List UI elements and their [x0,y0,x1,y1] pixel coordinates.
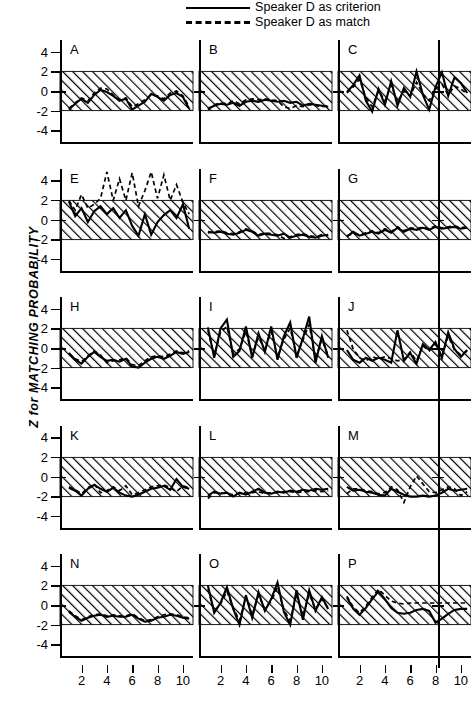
zero-level-tick [194,220,205,222]
panel-j: J [338,297,471,409]
x-tick-mark [132,665,134,673]
y-tick-label: 4 [41,45,48,58]
panel-b: B [199,40,332,152]
x-tick-mark [82,665,84,673]
significance-band [60,457,193,496]
zero-level-tick [55,348,66,350]
zero-level-tick [333,605,344,607]
zero-level-tick [333,477,344,479]
panel-c: C [338,40,471,152]
x-tick-mark [158,665,160,673]
y-tick-label: 2 [41,322,48,335]
panel-o: O [199,554,332,666]
zero-level-tick [55,605,66,607]
panel-row: NOP [60,554,440,666]
y-tick-label: 2 [41,579,48,592]
panel-plot-k [60,426,193,528]
x-tick-label: 4 [242,674,249,687]
panel-l: L [199,426,332,538]
legend-item-match: Speaker D as match [186,15,456,30]
panel-plot-c [338,40,471,142]
panel-label-m: M [348,429,359,442]
y-tick-label: -2 [36,490,48,503]
y-axis-row: 420-2-4 [0,169,60,281]
x-tick-mark [436,665,438,673]
x-tick-label: 10 [176,674,190,687]
panel-plot-i [199,297,332,399]
panel-bottom-spine [60,656,193,658]
y-tick-label: -4 [36,638,48,651]
x-tick-label: 2 [78,674,85,687]
panel-label-p: P [348,557,357,570]
significance-band [338,585,471,624]
y-tick-label: -2 [36,618,48,631]
panel-row: HIJ [60,297,440,409]
panel-bottom-spine [199,399,332,401]
panel-bottom-spine [338,656,471,658]
y-tick-mark [51,496,60,498]
y-tick-mark [51,368,60,370]
right-spine-tick [432,477,444,479]
y-axis-row: 420-2-4 [0,40,60,152]
panel-row: ABC [60,40,440,152]
x-tick-mark [322,665,324,673]
y-tick-label: 4 [41,302,48,315]
y-tick-mark [51,387,60,389]
panel-label-f: F [209,172,217,185]
panel-h: H [60,297,193,409]
x-tick-mark [385,665,387,673]
x-axis-column: 246810 [60,665,193,697]
panel-plot-l [199,426,332,528]
panel-plot-e [60,169,193,271]
x-tick-mark [183,665,185,673]
panel-plot-h [60,297,193,399]
x-tick-mark [360,665,362,673]
panel-bottom-spine [338,399,471,401]
y-tick-label: 0 [41,213,48,226]
panel-plot-n [60,554,193,656]
panel-label-h: H [70,300,79,313]
x-tick-label: 6 [407,674,414,687]
panel-label-n: N [70,557,79,570]
panel-bottom-spine [60,399,193,401]
x-tick-label: 10 [454,674,468,687]
x-tick-label: 10 [315,674,329,687]
panel-grid: ABCEFGHIJKLMNOP [60,40,440,665]
panel-f: F [199,169,332,281]
y-tick-mark [51,180,60,182]
y-tick-label: -2 [36,361,48,374]
panel-label-k: K [70,429,79,442]
panel-a: A [60,40,193,152]
y-tick-mark [51,625,60,627]
panel-g: G [338,169,471,281]
y-tick-mark [51,328,60,330]
panel-bottom-spine [338,528,471,530]
y-tick-mark [51,111,60,113]
panel-plot-f [199,169,332,271]
x-tick-mark [221,665,223,673]
significance-band [60,200,193,239]
y-tick-label: 0 [41,599,48,612]
panel-bottom-spine [199,528,332,530]
x-tick-mark [271,665,273,673]
panel-bottom-spine [199,142,332,144]
y-tick-mark [51,52,60,54]
dashed-line-key [186,21,250,24]
x-tick-label: 6 [129,674,136,687]
y-tick-mark [51,566,60,568]
x-tick-label: 2 [217,674,224,687]
x-tick-mark [461,665,463,673]
panel-k: K [60,426,193,538]
y-tick-mark [51,457,60,459]
panel-n: N [60,554,193,666]
panel-label-c: C [348,43,357,56]
y-tick-mark [51,200,60,202]
x-tick-label: 8 [154,674,161,687]
solid-line-key [186,7,250,9]
panel-row: EFG [60,169,440,281]
y-tick-mark [51,239,60,241]
y-tick-label: 2 [41,450,48,463]
y-tick-mark [51,309,60,311]
panel-bottom-spine [199,271,332,273]
x-tick-label: 8 [432,674,439,687]
